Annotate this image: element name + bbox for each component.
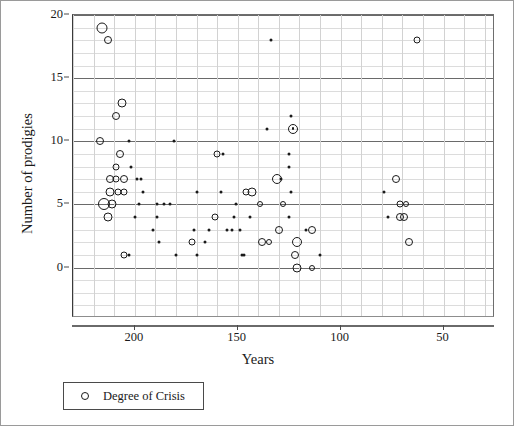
data-point (152, 228, 155, 231)
data-point (189, 239, 196, 246)
data-point (106, 187, 115, 196)
data-point (127, 253, 130, 256)
data-point (113, 163, 120, 170)
data-point (269, 39, 272, 42)
data-point (230, 228, 233, 231)
data-point (234, 203, 237, 206)
data-point (118, 99, 127, 108)
data-point (319, 253, 322, 256)
data-point (96, 22, 107, 33)
data-point (203, 241, 206, 244)
x-tick-mark (340, 325, 341, 330)
data-point (291, 251, 299, 259)
data-point (113, 176, 120, 183)
data-point (308, 226, 316, 234)
data-point (168, 203, 171, 206)
data-point (400, 213, 408, 221)
data-point (116, 150, 124, 158)
y-tick-mark (64, 203, 69, 204)
data-point (137, 203, 140, 206)
data-point (279, 178, 282, 181)
data-point (275, 226, 283, 234)
y-tick-mark (64, 14, 69, 15)
data-point (120, 175, 128, 183)
data-point (266, 239, 272, 245)
data-point (292, 237, 302, 247)
data-point (195, 253, 198, 256)
data-point (280, 201, 286, 207)
data-point (265, 127, 268, 130)
data-point (386, 216, 389, 219)
data-point (212, 214, 219, 221)
data-point (104, 36, 112, 44)
y-tick-label: 15 (51, 71, 64, 84)
data-point (158, 241, 161, 244)
data-point (162, 203, 165, 206)
data-point (141, 190, 144, 193)
data-point (139, 178, 142, 181)
plot-area (72, 14, 494, 317)
data-point (290, 115, 293, 118)
data-point (293, 263, 302, 272)
y-tick-mark (64, 77, 69, 78)
data-point (257, 201, 263, 207)
x-axis-line (72, 325, 494, 327)
data-point (108, 200, 117, 209)
data-point (382, 190, 385, 193)
x-tick-mark (237, 325, 238, 330)
x-tick-label: 100 (330, 331, 349, 344)
scatter-chart-figure: Number of prodigies 20151050 20015010050… (0, 0, 514, 426)
y-tick-mark (64, 140, 69, 141)
data-point (156, 216, 159, 219)
data-point (304, 228, 307, 231)
data-point (403, 201, 409, 207)
data-point (195, 190, 198, 193)
x-tick-mark (443, 325, 444, 330)
data-point (133, 216, 136, 219)
y-tick-label: 0 (57, 260, 63, 273)
data-point (127, 140, 130, 143)
data-point (96, 137, 104, 145)
data-point (214, 150, 221, 157)
data-point (392, 175, 400, 183)
data-point (288, 216, 291, 219)
data-point (129, 165, 132, 168)
x-tick-label: 200 (124, 331, 143, 344)
data-point (222, 152, 225, 155)
y-tick-label: 20 (51, 8, 64, 21)
chart-legend: Degree of Crisis (63, 382, 204, 410)
data-point (112, 112, 120, 120)
data-point (288, 124, 298, 134)
open-circle-marker-icon (81, 392, 89, 400)
data-point (156, 203, 159, 206)
data-point (288, 165, 291, 168)
data-point (242, 253, 245, 256)
data-point (174, 253, 177, 256)
x-tick-label: 50 (436, 331, 449, 344)
data-point (238, 228, 241, 231)
y-tick-label: 10 (51, 134, 64, 147)
x-axis-title: Years (1, 351, 514, 368)
y-tick-mark (64, 266, 69, 267)
x-tick-label: 150 (227, 331, 246, 344)
data-point (207, 228, 210, 231)
x-tick-mark (134, 325, 135, 330)
data-point (226, 228, 229, 231)
data-point (220, 190, 223, 193)
data-point (290, 190, 293, 193)
data-points-layer (73, 15, 493, 316)
data-point (288, 152, 291, 155)
data-point (135, 178, 138, 181)
data-point (232, 216, 235, 219)
y-tick-label: 5 (57, 197, 63, 210)
data-point (413, 37, 420, 44)
x-axis-tick-labels: 20015010050 (1, 331, 514, 353)
data-point (172, 140, 175, 143)
data-point (249, 216, 252, 219)
data-point (309, 265, 315, 271)
data-point (193, 228, 196, 231)
data-point (405, 238, 413, 246)
data-point (103, 213, 112, 222)
data-point (248, 187, 257, 196)
data-point (121, 188, 128, 195)
